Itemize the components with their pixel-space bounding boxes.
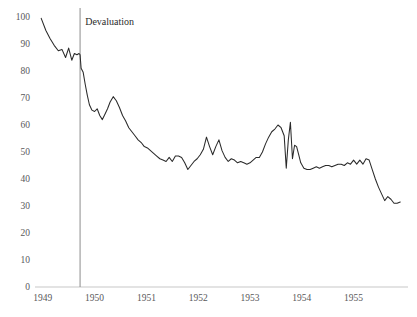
x-tick-label: 1950 (85, 293, 104, 303)
x-tick-label: 1954 (292, 293, 311, 303)
y-tick-label: 90 (21, 39, 31, 49)
line-chart: 0102030405060708090100 19491950195119521… (0, 0, 417, 317)
x-tick-label: 1951 (137, 293, 156, 303)
y-axis-tick-labels: 0102030405060708090100 (16, 12, 31, 292)
annotation-labels: Devaluation (85, 16, 134, 27)
y-tick-label: 10 (21, 255, 31, 265)
y-tick-label: 40 (21, 174, 31, 184)
x-tick-label: 1949 (33, 293, 52, 303)
y-tick-label: 70 (21, 93, 31, 103)
y-tick-label: 30 (21, 201, 31, 211)
x-tick-label: 1955 (344, 293, 363, 303)
data-series (41, 18, 400, 203)
y-tick-label: 100 (16, 12, 31, 22)
x-tick-label: 1953 (240, 293, 259, 303)
devaluation-label: Devaluation (85, 16, 134, 27)
x-tick-label: 1952 (189, 293, 208, 303)
y-tick-label: 60 (21, 120, 31, 130)
y-tick-label: 20 (21, 228, 31, 238)
series-path (41, 18, 400, 203)
chart-container: 0102030405060708090100 19491950195119521… (0, 0, 417, 317)
y-tick-label: 80 (21, 66, 31, 76)
y-tick-label: 0 (25, 282, 30, 292)
y-tick-label: 50 (21, 147, 31, 157)
x-axis-tick-labels: 1949195019511952195319541955 (33, 293, 363, 303)
